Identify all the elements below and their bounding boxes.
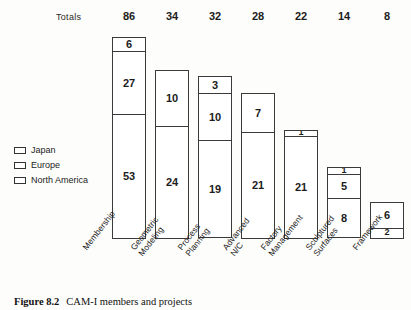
bar-geometric-modeling: 10 24: [155, 70, 189, 240]
bar-segment-europe: 10: [155, 70, 189, 127]
bar-segment-value: 7: [255, 108, 261, 119]
bar-segment-value: 6: [126, 39, 132, 50]
bar-segment-value: 8: [341, 213, 347, 224]
bar-segment-value: 5: [341, 181, 347, 192]
bar-membership: 6 27 53: [112, 37, 146, 240]
bar-segment-japan: 6: [112, 37, 146, 52]
figure-caption: Figure 8.2CAM-I members and projects: [14, 296, 411, 308]
figure-number: Figure 8.2: [14, 296, 59, 307]
bar-segment-north-america: 24: [155, 126, 189, 239]
bar-segment-value: 2: [384, 228, 389, 237]
bar-segment-europe: 10: [198, 93, 232, 141]
bar-segment-value: 3: [212, 80, 218, 91]
bar-segment-value: 24: [166, 177, 178, 188]
bar-segment-europe: 27: [112, 51, 146, 115]
bar-segment-value: 21: [295, 182, 307, 193]
bar-segment-europe: 5: [327, 174, 361, 199]
bar-segment-north-america: 53: [112, 114, 146, 239]
figure-caption-text: CAM-I members and projects: [66, 296, 192, 307]
bar-segment-japan: 3: [198, 76, 232, 94]
bar-process-planning: 3 10 19: [198, 76, 232, 240]
bar-segment-value: 21: [252, 180, 264, 191]
figure-container: Totals 86 34 32 28 22 14 8 Japan Europe …: [0, 0, 411, 310]
bar-segment-value: 53: [123, 171, 135, 182]
bar-segment-europe: 7: [241, 93, 275, 133]
bar-segment-value: 19: [209, 184, 221, 195]
bar-segment-value: 6: [384, 210, 390, 221]
x-axis-labels: Membership Geometric Modeling Process Pl…: [0, 240, 411, 296]
bar-segment-value: 10: [209, 112, 221, 123]
bar-segment-value: 27: [123, 78, 135, 89]
plot-area: 6 27 53 10 24 3 10: [0, 0, 411, 250]
bar-segment-value: 10: [166, 93, 178, 104]
